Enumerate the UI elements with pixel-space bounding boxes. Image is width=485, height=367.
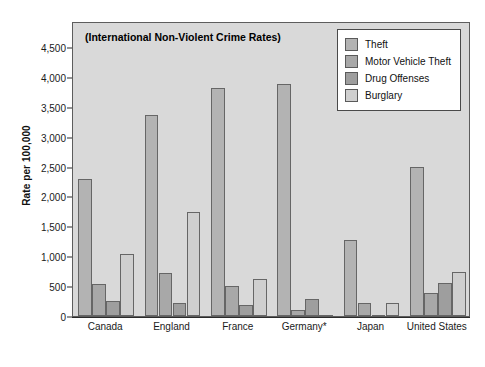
bar[interactable] [78, 179, 92, 316]
bar[interactable] [277, 84, 291, 316]
bar[interactable] [438, 283, 452, 316]
bar-group [338, 23, 404, 316]
y-axis-ticks: 05001,0001,5002,0002,5003,0003,5004,0004… [0, 0, 72, 367]
bar[interactable] [145, 115, 159, 316]
bar[interactable] [344, 240, 358, 316]
y-tick-label: 2,500 [41, 162, 66, 173]
y-tick-label: 3,500 [41, 102, 66, 113]
y-tick-label: 4,500 [41, 43, 66, 54]
bar[interactable] [211, 88, 225, 316]
bar[interactable] [424, 293, 438, 316]
chart-figure: Rate per 100,000 05001,0001,5002,0002,50… [0, 0, 485, 367]
bar-group [405, 23, 471, 316]
bar[interactable] [386, 303, 400, 316]
bar[interactable] [173, 303, 187, 316]
y-tick-label: 4,000 [41, 72, 66, 83]
bar[interactable] [358, 303, 372, 316]
bar[interactable] [319, 315, 333, 316]
x-axis-label: United States [397, 320, 477, 333]
bar[interactable] [159, 273, 173, 316]
bar[interactable] [92, 284, 106, 316]
y-tick-label: 3,000 [41, 132, 66, 143]
bar[interactable] [120, 254, 134, 316]
bar[interactable] [225, 286, 239, 316]
bar[interactable] [253, 279, 267, 316]
y-tick-label: 500 [49, 282, 66, 293]
bar[interactable] [106, 301, 120, 316]
bar[interactable] [305, 299, 319, 316]
plot-area: (International Non-Violent Crime Rates) … [72, 22, 470, 317]
bar[interactable] [452, 272, 466, 316]
bar-group [73, 23, 139, 316]
bar[interactable] [187, 212, 201, 316]
y-tick-label: 1,000 [41, 252, 66, 263]
x-axis-line [72, 317, 470, 318]
bar-group [272, 23, 338, 316]
bar-group [206, 23, 272, 316]
y-tick-label: 2,000 [41, 192, 66, 203]
plot-inner: (International Non-Violent Crime Rates) … [73, 23, 469, 316]
bar[interactable] [239, 305, 253, 316]
bar-group [139, 23, 205, 316]
bar[interactable] [372, 315, 386, 316]
bar[interactable] [410, 167, 424, 316]
y-tick-label: 1,500 [41, 222, 66, 233]
x-axis-labels: CanadaEnglandFranceGermany*JapanUnited S… [72, 320, 470, 366]
bar[interactable] [291, 310, 305, 316]
